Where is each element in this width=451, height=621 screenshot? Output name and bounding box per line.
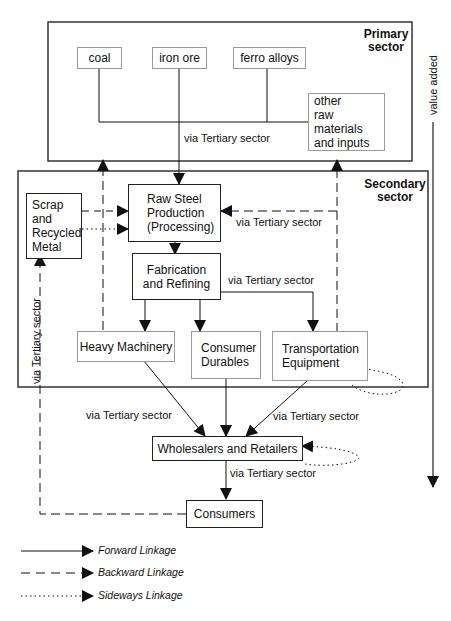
node-transportation-equipment: Transportation Equipment [272,331,368,381]
node-raw-steel-line2: Production [147,206,214,220]
edge-label-consumers-to-scrap: via Tertiary sector [30,298,42,384]
edge-label-heavy-to-wholesale: via Tertiary sector [86,409,172,421]
node-other-raw-line1: other [314,94,384,108]
node-scrap-line1: Scrap [32,198,81,212]
sideways-loop-wholesale [302,446,359,465]
node-scrap-line4: Metal [32,240,81,254]
node-other-raw-line2: raw materials [314,108,384,136]
edge-label-wholesale-to-consumers: via Tertiary sector [230,467,316,479]
secondary-sector-label: Secondary sector [362,178,428,204]
node-consumers-label: Consumers [194,507,255,521]
node-iron-ore: iron ore [152,47,207,69]
node-scrap-line3: Recycled [32,226,81,240]
forward-link-fabrication-to-transport [221,292,313,331]
edge-label-transport-to-wholesale: via Tertiary sector [273,410,359,422]
legend-forward-label: Forward Linkage [98,544,176,556]
node-consumer-durables-line1: Consumer [201,341,256,355]
node-consumer-durables-line2: Durables [201,355,256,369]
node-scrap-recycled-metal: Scrap and Recycled Metal [26,193,82,259]
primary-sector-label: Primary sector [360,28,412,54]
node-fabrication-refining: Fabrication and Refining [132,253,221,300]
legend-backward-label: Backward Linkage [98,566,184,578]
node-wholesalers-label: Wholesalers and Retailers [157,442,297,456]
node-ferro-alloys-label: ferro alloys [240,51,299,65]
node-iron-ore-label: iron ore [159,51,200,65]
node-scrap-line2: and [32,212,81,226]
node-fabrication-line2: and Refining [143,277,210,291]
node-raw-steel-production: Raw Steel Production (Processing) [128,184,221,242]
node-transportation-line1: Transportation [282,342,359,356]
node-heavy-machinery: Heavy Machinery [77,331,175,362]
node-raw-steel-line3: (Processing) [147,220,214,234]
node-wholesalers-retailers: Wholesalers and Retailers [152,436,303,461]
node-transportation-line2: Equipment [282,356,359,370]
node-ferro-alloys: ferro alloys [233,47,306,69]
primary-raw-connectors [99,68,310,122]
node-other-raw-line3: and inputs [314,136,384,150]
node-heavy-machinery-label: Heavy Machinery [80,340,173,354]
primary-sector-label-line2: sector [360,41,412,54]
node-consumer-durables: Consumer Durables [191,331,261,379]
edge-label-transport-to-raw: via Tertiary sector [236,216,322,228]
node-coal: coal [77,47,122,69]
edge-label-fab-to-transport: via Tertiary sector [228,274,314,286]
node-other-raw-materials: other raw materials and inputs [308,93,385,151]
edge-label-primary-to-raw: via Tertiary sector [184,132,270,144]
legend-sideways-label: Sideways Linkage [98,589,183,601]
value-added-label: value added [427,55,439,115]
forward-link-transport-to-wholesale [246,381,307,436]
node-fabrication-line1: Fabrication [143,263,210,277]
node-consumers: Consumers [186,500,263,528]
node-coal-label: coal [88,51,110,65]
node-raw-steel-line1: Raw Steel [147,192,214,206]
secondary-sector-label-line2: sector [362,191,428,204]
